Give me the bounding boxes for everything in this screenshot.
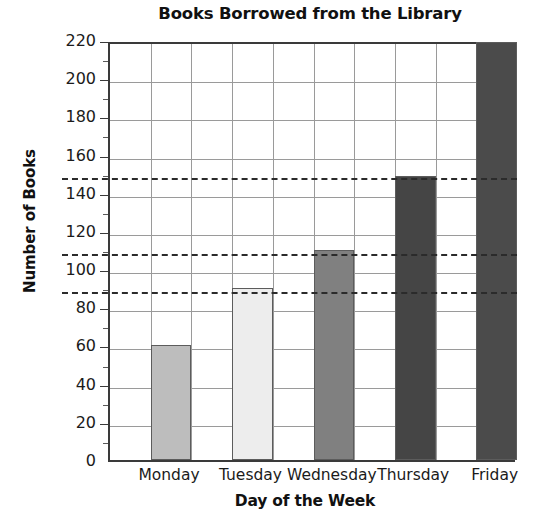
y-tick-mark-120 [100,233,108,234]
bar-monday[interactable] [151,345,192,460]
bar-thursday[interactable] [395,176,436,460]
x-tick-label-friday: Friday [435,466,535,484]
plot-area [108,42,515,462]
bar-chart: Books Borrowed from the Library Number o… [0,0,535,524]
reference-line-150 [62,178,517,180]
y-tick-mark-80 [100,309,108,310]
y-tick-mark-140 [100,195,108,196]
y-tick-label-80: 80 [26,298,96,317]
gridline-x-2 [191,44,192,460]
bar-wednesday[interactable] [314,250,355,460]
y-tick-label-120: 120 [26,222,96,241]
gridline-x-4 [273,44,274,460]
y-tick-label-160: 160 [26,146,96,165]
gridline-y-140 [110,197,513,198]
y-tick-mark-160 [100,157,108,158]
gridline-y-180 [110,120,513,121]
gridline-y-120 [110,235,513,236]
y-tick-label-100: 100 [26,260,96,279]
reference-line-90 [62,292,517,294]
y-tick-mark-60 [100,347,108,348]
y-tick-mark-200 [100,80,108,81]
reference-line-110 [62,254,517,256]
y-tick-mark-40 [100,386,108,387]
gridline-y-200 [110,82,513,83]
y-tick-mark-180 [100,118,108,119]
y-tick-label-60: 60 [26,336,96,355]
gridline-x-8 [436,44,437,460]
gridline-y-100 [110,273,513,274]
y-tick-label-0: 0 [26,451,96,470]
y-tick-label-20: 20 [26,413,96,432]
gridline-x-6 [354,44,355,460]
y-tick-label-200: 200 [26,69,96,88]
chart-title: Books Borrowed from the Library [100,4,520,23]
y-tick-label-180: 180 [26,107,96,126]
x-axis-title: Day of the Week [95,492,515,510]
y-tick-label-140: 140 [26,184,96,203]
y-tick-mark-100 [100,271,108,272]
gridline-y-160 [110,159,513,160]
gridline-y-80 [110,311,513,312]
y-tick-label-40: 40 [26,375,96,394]
bar-friday[interactable] [476,42,517,460]
y-tick-mark-20 [100,424,108,425]
bar-tuesday[interactable] [232,288,273,460]
y-tick-mark-220 [100,42,108,43]
y-tick-label-220: 220 [26,31,96,50]
